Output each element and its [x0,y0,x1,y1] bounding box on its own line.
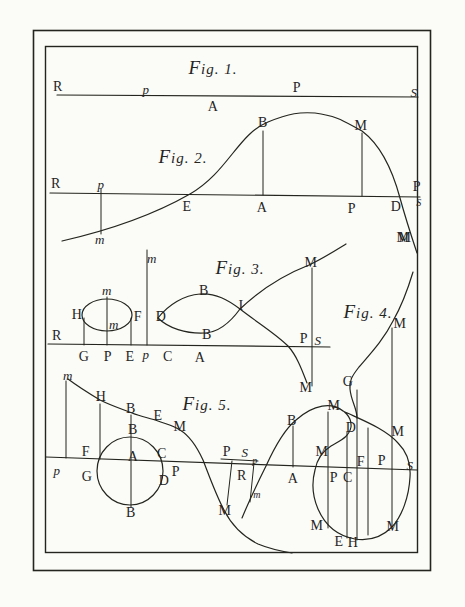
point-label: M [219,504,232,518]
point-label: P [300,332,308,346]
point-label: C [343,471,353,485]
point-label: I [238,299,243,313]
engraving-plate: Fig. 1.RpPSAFig. 2.RpmBMEAPDPSMFig. 3.mR… [0,0,465,607]
point-label: P [223,445,231,459]
point-label: D [156,310,167,324]
point-label: A [195,351,206,365]
point-label: S [411,86,418,99]
point-label: D [346,421,357,435]
point-label: S [407,459,414,472]
point-label: p [143,348,150,361]
point-label: M [397,231,410,245]
point-label: B [126,402,136,416]
point-label: m [102,284,112,297]
point-label: p [54,464,61,477]
point-label: D [391,200,402,214]
point-label: B [126,506,136,520]
point-label: M [174,420,187,434]
point-label: S [315,334,322,347]
point-label: H [72,308,83,322]
point-label: p [252,456,258,466]
point-label: m [253,490,261,500]
point-label: P [330,471,338,485]
point-label: B [258,116,268,130]
point-label: A [288,472,299,486]
point-label: E [153,409,162,423]
point-label: M [394,317,407,331]
point-label: m [95,233,105,246]
label-layer: Fig. 1.RpPSAFig. 2.RpmBMEAPDPSMFig. 3.mR… [0,0,465,607]
point-label: G [79,350,90,364]
point-label: M [328,399,341,413]
point-label: E [125,350,134,364]
point-label: P [413,180,421,194]
point-label: p [98,178,105,191]
point-label: B [202,328,212,342]
point-label: M [300,381,313,395]
point-label: M [305,256,318,270]
point-label: P [348,202,356,216]
point-label: G [343,375,354,389]
figure-title-4: Fig. 4. [343,302,392,321]
point-label: S [242,446,249,459]
point-label: M [311,519,324,533]
point-label: P [293,81,301,95]
point-label: P [378,454,386,468]
point-label: A [208,100,219,114]
point-label: C [157,447,167,461]
point-label: p [143,83,150,96]
figure-title-5: Fig. 5. [182,394,231,413]
point-label: F [82,445,90,459]
point-label: R [51,177,61,191]
point-label: H [96,390,107,404]
figure-title-3: Fig. 3. [215,258,264,277]
point-label: R [237,469,247,483]
point-label: R [52,329,62,343]
point-label: D [159,474,170,488]
point-label: E [334,535,343,549]
point-label: m [147,252,157,265]
figure-title-2: Fig. 2. [158,147,207,166]
point-label: F [357,455,365,469]
point-label: m [109,318,119,331]
point-label: B [128,423,138,437]
point-label: A [257,201,268,215]
point-label: M [316,445,329,459]
point-label: S [416,198,422,208]
figure-title-1: Fig. 1. [188,58,237,77]
point-label: M [355,119,368,133]
point-label: M [392,425,405,439]
point-label: P [172,465,180,479]
point-label: R [53,80,63,94]
point-label: P [104,350,112,364]
point-label: M [387,520,400,534]
point-label: E [182,200,191,214]
point-label: H [348,536,359,550]
point-label: A [128,450,139,464]
point-label: B [199,284,209,298]
point-label: F [134,310,142,324]
point-label: m [63,369,73,382]
point-label: C [163,350,173,364]
point-label: G [82,470,93,484]
point-label: B [287,414,297,428]
